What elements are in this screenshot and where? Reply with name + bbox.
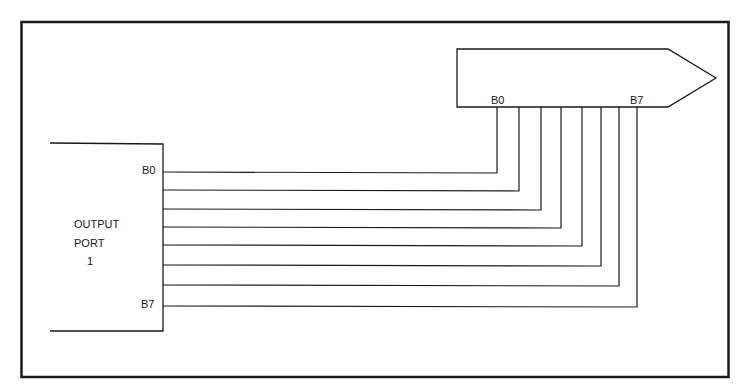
port-label-line1: OUTPUT bbox=[74, 218, 119, 230]
wire-b2 bbox=[163, 107, 541, 210]
diagram-canvas bbox=[0, 0, 745, 389]
port-label-line2: PORT bbox=[74, 237, 104, 249]
wire-b1 bbox=[163, 107, 519, 191]
bus-bit-label-b7: B7 bbox=[630, 94, 643, 106]
outer-frame bbox=[22, 22, 729, 377]
wire-b5 bbox=[163, 107, 601, 266]
connection-wires bbox=[163, 107, 637, 307]
wire-b7 bbox=[163, 107, 637, 307]
bus-bit-label-b0: B0 bbox=[491, 94, 504, 106]
port-bit-label-b7: B7 bbox=[141, 298, 154, 310]
wire-b0 bbox=[163, 107, 497, 173]
port-label-line3: 1 bbox=[85, 255, 95, 267]
port-bit-label-b0: B0 bbox=[142, 164, 155, 176]
wire-b6 bbox=[163, 107, 619, 286]
